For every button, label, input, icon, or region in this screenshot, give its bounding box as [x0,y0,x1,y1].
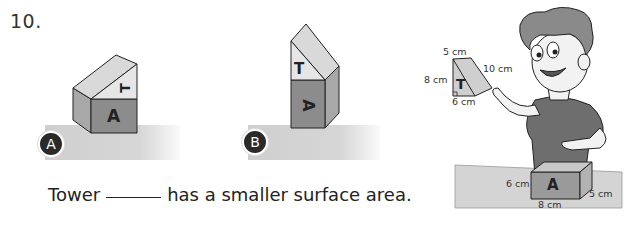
cuboid-depth-measurement: 5 cm [589,188,613,199]
prism-left-measurement: 8 cm [424,74,448,85]
illustration-cuboid-label: A [547,176,559,194]
prism-hypotenuse-measurement: 10 cm [483,63,513,74]
prism-bottom-measurement: 6 cm [452,96,476,107]
cuboid-height-measurement: 6 cm [506,178,530,189]
prism-top-measurement: 5 cm [443,46,467,57]
cuboid-length-measurement: 8 cm [538,199,562,210]
illustration-prism-label: T [456,76,466,92]
